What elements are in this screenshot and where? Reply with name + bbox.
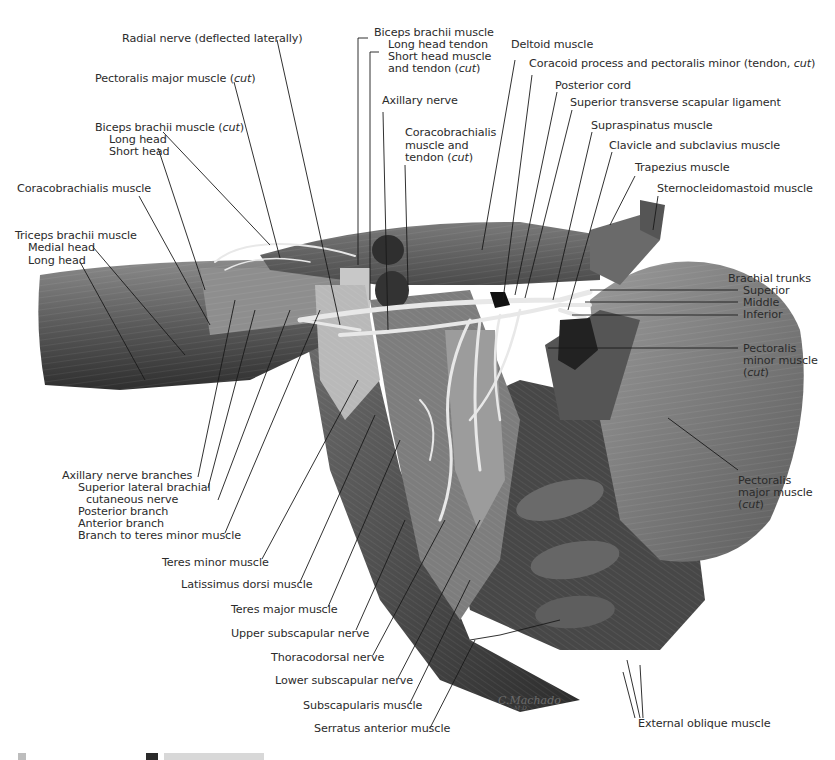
- label-external-oblique: External oblique muscle: [638, 717, 770, 730]
- label-trunk-inferior: Inferior: [743, 308, 783, 321]
- label-biceps-short-head: Short head: [109, 145, 170, 158]
- label-trapezius: Trapezius muscle: [635, 161, 729, 174]
- artist-signature: C.MachadoM.D.: [498, 694, 561, 711]
- label-triceps-long-head: Long head: [28, 254, 86, 267]
- label-coracobrachialis: Coracobrachialis muscle: [17, 182, 151, 195]
- label-coracoid-process: Coracoid process and pectoralis minor (t…: [529, 57, 815, 70]
- label-branch-to-teres-minor: Branch to teres minor muscle: [78, 529, 241, 542]
- label-teres-minor: Teres minor muscle: [162, 556, 269, 569]
- label-pectoralis-major-3: (cut): [738, 498, 764, 511]
- anatomy-illustration: [0, 0, 835, 760]
- label-posterior-cord: Posterior cord: [555, 79, 631, 92]
- label-clavicle-subclavius: Clavicle and subclavius muscle: [609, 139, 780, 152]
- opening: [490, 292, 510, 308]
- label-coracobrachialis-tendon-1: Coracobrachialis: [405, 126, 496, 139]
- label-deltoid: Deltoid muscle: [511, 38, 593, 51]
- label-short-head-tendon: and tendon (cut): [388, 62, 480, 75]
- label-triceps-medial-head: Medial head: [28, 241, 95, 254]
- label-coracobrachialis-tendon-3: tendon (cut): [405, 151, 473, 164]
- label-sternocleidomastoid: Sternocleidomastoid muscle: [657, 182, 813, 195]
- deltoid-band: [260, 200, 665, 285]
- label-axillary-nerve: Axillary nerve: [382, 94, 458, 107]
- label-latissimus-dorsi: Latissimus dorsi muscle: [181, 578, 312, 591]
- label-lower-subscapular-nerve: Lower subscapular nerve: [275, 674, 413, 687]
- label-supraspinatus: Supraspinatus muscle: [591, 119, 713, 132]
- label-superior-transverse-scapular-ligament: Superior transverse scapular ligament: [570, 96, 781, 109]
- label-radial-nerve: Radial nerve (deflected laterally): [122, 32, 303, 45]
- label-pectoralis-major-cut: Pectoralis major muscle (cut): [95, 72, 256, 85]
- label-pectoralis-minor-3: (cut): [743, 366, 769, 379]
- label-upper-subscapular-nerve: Upper subscapular nerve: [231, 627, 369, 640]
- label-subscapularis: Subscapularis muscle: [303, 699, 422, 712]
- label-serratus-anterior: Serratus anterior muscle: [314, 722, 450, 735]
- label-teres-major: Teres major muscle: [231, 603, 337, 616]
- arm-musculature: [38, 260, 345, 390]
- label-thoracodorsal-nerve: Thoracodorsal nerve: [271, 651, 384, 664]
- cropped-caption-text: [16, 753, 316, 760]
